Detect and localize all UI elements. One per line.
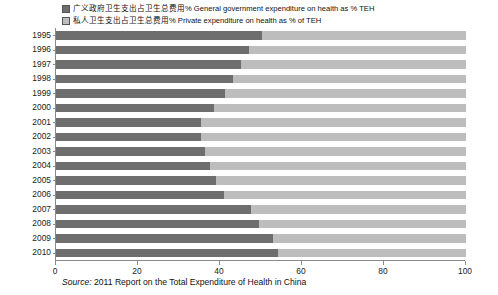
bar-segment-priv [205, 147, 466, 156]
bar-segment-gov [56, 89, 225, 98]
stacked-bar [56, 220, 466, 229]
chart-row: 2001 [56, 118, 466, 127]
y-axis-label: 1999 [32, 89, 51, 98]
x-axis-tick [55, 261, 56, 265]
legend-item-government: 广义政府卫生支出占卫生总费用% General government expen… [62, 3, 482, 14]
chart-row: 2000 [56, 104, 466, 113]
plot-area: 1995199619971998199920002001200220032004… [55, 28, 466, 260]
chart-row: 2002 [56, 133, 466, 142]
y-axis-label: 2001 [32, 118, 51, 127]
bar-segment-priv [201, 118, 466, 127]
bar-segment-gov [56, 133, 201, 142]
stacked-bar [56, 46, 466, 55]
bar-segment-priv [249, 46, 466, 55]
x-axis-tick [383, 261, 384, 265]
bar-segment-priv [259, 220, 466, 229]
bar-segment-gov [56, 191, 224, 200]
x-axis-tick-label: 100 [458, 266, 472, 276]
x-axis-tick-label: 80 [378, 266, 387, 276]
bar-segment-priv [201, 133, 466, 142]
chart-row: 2003 [56, 147, 466, 156]
chart-row: 1995 [56, 31, 466, 40]
y-axis-label: 1996 [32, 45, 51, 54]
stacked-bar [56, 249, 466, 258]
chart-row: 2005 [56, 176, 466, 185]
chart-legend: 广义政府卫生支出占卫生总费用% General government expen… [62, 3, 482, 27]
y-axis-label: 2002 [32, 132, 51, 141]
stacked-bar [56, 118, 466, 127]
source-note: Source: 2011 Report on the Total Expendi… [62, 277, 306, 288]
legend-item-label: 私人卫生支出占卫生总费用% Private expenditure on hea… [73, 16, 321, 25]
x-axis: 020406080100 [55, 260, 465, 261]
bar-segment-priv [225, 89, 466, 98]
x-axis-tick [301, 261, 302, 265]
y-axis-label: 2007 [32, 205, 51, 214]
bar-segment-priv [278, 249, 466, 258]
x-axis-tick [137, 261, 138, 265]
stacked-bar [56, 234, 466, 243]
square-swatch-icon [62, 17, 70, 25]
legend-item-private: 私人卫生支出占卫生总费用% Private expenditure on hea… [62, 15, 482, 26]
bar-segment-priv [214, 104, 466, 113]
bar-rows: 1995199619971998199920002001200220032004… [56, 28, 466, 260]
y-axis-label: 2008 [32, 219, 51, 228]
square-swatch-icon [62, 5, 70, 13]
chart-row: 2009 [56, 234, 466, 243]
x-axis-tick [465, 261, 466, 265]
stacked-bar [56, 176, 466, 185]
y-axis-label: 2004 [32, 161, 51, 170]
chart-row: 2008 [56, 220, 466, 229]
bar-segment-gov [56, 31, 262, 40]
x-axis-tick-label: 0 [53, 266, 58, 276]
stacked-bar-chart: 广义政府卫生支出占卫生总费用% General government expen… [0, 0, 498, 295]
bar-segment-gov [56, 205, 251, 214]
stacked-bar [56, 31, 466, 40]
x-axis-tick-label: 60 [296, 266, 305, 276]
bar-segment-priv [241, 60, 466, 69]
bar-segment-priv [216, 176, 466, 185]
legend-item-label: 广义政府卫生支出占卫生总费用% General government expen… [73, 4, 374, 13]
x-axis-tick-label: 20 [132, 266, 141, 276]
bar-segment-priv [273, 234, 466, 243]
bar-segment-gov [56, 118, 201, 127]
y-axis-label: 1998 [32, 74, 51, 83]
bar-segment-gov [56, 147, 205, 156]
bar-segment-gov [56, 46, 249, 55]
chart-row: 1998 [56, 75, 466, 84]
chart-row: 2004 [56, 162, 466, 171]
bar-segment-gov [56, 75, 233, 84]
bar-segment-gov [56, 234, 273, 243]
y-axis-label: 2005 [32, 176, 51, 185]
y-axis-label: 2009 [32, 234, 51, 243]
bar-segment-gov [56, 162, 210, 171]
bar-segment-gov [56, 220, 259, 229]
bar-segment-priv [224, 191, 466, 200]
stacked-bar [56, 162, 466, 171]
stacked-bar [56, 89, 466, 98]
stacked-bar [56, 205, 466, 214]
bar-segment-gov [56, 176, 216, 185]
source-text: 2011 Report on the Total Expenditure of … [94, 277, 306, 287]
stacked-bar [56, 133, 466, 142]
stacked-bar [56, 147, 466, 156]
chart-row: 1999 [56, 89, 466, 98]
bar-segment-priv [210, 162, 466, 171]
x-axis-tick-label: 40 [214, 266, 223, 276]
stacked-bar [56, 191, 466, 200]
y-axis-label: 1997 [32, 60, 51, 69]
bar-segment-priv [233, 75, 466, 84]
chart-row: 1996 [56, 46, 466, 55]
bar-segment-priv [251, 205, 466, 214]
stacked-bar [56, 75, 466, 84]
y-axis-label: 2000 [32, 103, 51, 112]
stacked-bar [56, 60, 466, 69]
chart-row: 2006 [56, 191, 466, 200]
y-axis-label: 1995 [32, 31, 51, 40]
chart-row: 1997 [56, 60, 466, 69]
source-prefix: Source: [62, 277, 92, 287]
chart-row: 2007 [56, 205, 466, 214]
y-axis-label: 2006 [32, 190, 51, 199]
y-axis-label: 2003 [32, 147, 51, 156]
y-axis-label: 2010 [32, 248, 51, 257]
x-axis-tick [219, 261, 220, 265]
